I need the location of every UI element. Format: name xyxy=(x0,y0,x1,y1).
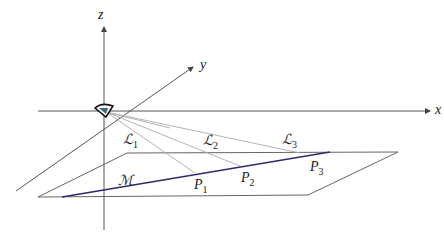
point-label-1: P1 xyxy=(194,178,208,195)
line-label-1: ℒ1 xyxy=(123,133,138,150)
diagram-canvas xyxy=(0,0,444,239)
y-axis-label: y xyxy=(200,58,206,72)
line-label-2: ℒ2 xyxy=(203,134,218,151)
x-axis-label: x xyxy=(435,103,441,117)
line-label-3: ℒ3 xyxy=(282,133,297,150)
plane-m xyxy=(38,152,398,197)
diagram: z y x ℒ1 ℒ2 ℒ3 ℳ P1 P2 P3 xyxy=(0,0,444,239)
plane-label: ℳ xyxy=(118,174,133,188)
z-axis-label: z xyxy=(98,8,103,22)
point-label-3: P3 xyxy=(310,160,324,177)
point-label-2: P2 xyxy=(241,171,255,188)
